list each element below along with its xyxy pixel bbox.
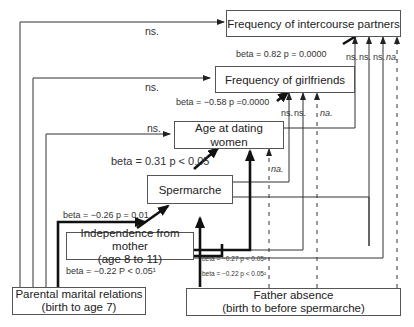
edge-label-into-dating: na.: [271, 164, 284, 174]
edge-label-into-girlfriends-1: ns.: [281, 108, 293, 118]
edge-label-parental-independence: beta = −0.22 P < 0.05¹: [66, 266, 156, 276]
node-label: Frequency of girlfriends: [225, 73, 345, 87]
edge-label-parental-intercourse: ns.: [145, 25, 159, 37]
node-father-absence: Father absence (birth to before spermarc…: [186, 288, 401, 316]
edge-label-into-intercourse-3: ns.: [373, 52, 385, 62]
edge-label-dating-girlfriends: beta = −0.58 p =0.0000: [176, 97, 269, 107]
edge-label-independence-spermarche: beta = −0.26 p = 0.01: [63, 210, 149, 220]
node-girlfriends: Frequency of girlfriends: [215, 66, 355, 93]
edge-label-into-girlfriends-3: na.: [320, 108, 333, 118]
edge-label-parental-dating: ns.: [147, 122, 161, 134]
edge-label-into-girlfriends-2: ns.: [294, 108, 306, 118]
node-label: Frequency of intercourse partners: [227, 17, 400, 31]
node-label-line2: (birth to before spermarche): [222, 302, 365, 315]
node-dating-women: Age at dating women: [174, 121, 284, 149]
edge-label-into-intercourse-1: ns.: [346, 52, 358, 62]
node-label-line1: Parental marital relations: [15, 288, 142, 301]
edge-label-girlfriends-intercourse: beta = 0.82 p = 0.0000: [236, 49, 327, 59]
edge-label-into-intercourse-2: ns.: [359, 52, 371, 62]
edge-label-father-independence-b: beta = −0.22 p < 0.05²: [202, 270, 266, 277]
node-label-line2: (age 8 to 11): [98, 253, 162, 266]
node-label-line1: Father absence: [254, 289, 334, 302]
node-intercourse-partners: Frequency of intercourse partners: [226, 10, 401, 37]
edge-label-parental-girlfriends: ns.: [145, 81, 159, 93]
node-label-line1: Independence from mother: [67, 227, 193, 253]
node-spermarche: Spermarche: [147, 175, 233, 204]
edge-label-spermarche-dating: beta = 0.31 p < 0.05: [111, 155, 209, 167]
edge-label-into-intercourse-4: na.: [386, 52, 399, 62]
node-label: Spermarche: [159, 183, 222, 197]
node-label: Age at dating women: [175, 121, 283, 149]
edge-label-father-independence-a: beta = −0.27 p < 0.05²: [202, 255, 266, 262]
node-parental-relations: Parental marital relations (birth to age…: [12, 287, 146, 315]
node-label-line2: (birth to age 7): [42, 301, 117, 314]
node-independence: Independence from mother (age 8 to 11): [66, 232, 194, 260]
